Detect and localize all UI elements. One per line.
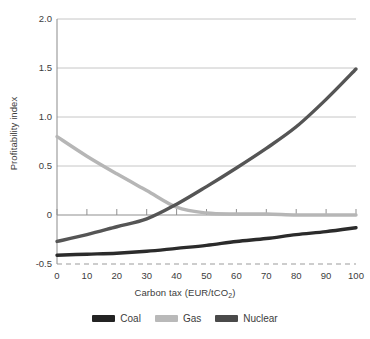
x-axis-title-main: Carbon tax (EUR/tCO — [134, 287, 228, 298]
legend-item-coal[interactable]: Coal — [92, 313, 141, 324]
x-axis-title: Carbon tax (EUR/tCO2) — [0, 287, 370, 299]
x-tick-label-20: 20 — [100, 270, 134, 281]
y-tick-label--0.5: -0.5 — [18, 258, 52, 269]
chart-legend: CoalGasNuclear — [0, 313, 370, 324]
legend-swatch-coal — [92, 315, 115, 322]
y-tick-label-1: 1.0 — [18, 111, 52, 122]
legend-swatch-gas — [155, 315, 178, 322]
x-tick-label-90: 90 — [309, 270, 343, 281]
y-tick-label-0.5: 0.5 — [18, 160, 52, 171]
x-axis-title-close: ) — [232, 287, 235, 298]
x-tick-label-60: 60 — [219, 270, 253, 281]
y-tick-label-0: 0 — [18, 209, 52, 220]
legend-label-gas: Gas — [183, 313, 201, 324]
gridlines-group — [57, 19, 356, 264]
x-tick-label-50: 50 — [190, 270, 224, 281]
x-tick-label-80: 80 — [279, 270, 313, 281]
legend-label-nuclear: Nuclear — [243, 313, 277, 324]
x-tick-label-40: 40 — [160, 270, 194, 281]
y-tick-label-2: 2.0 — [18, 13, 52, 24]
legend-item-nuclear[interactable]: Nuclear — [215, 313, 277, 324]
x-tick-label-70: 70 — [249, 270, 283, 281]
legend-label-coal: Coal — [120, 313, 141, 324]
chart-figure: 2.01.51.00.50-0.5 0102030405060708090100… — [0, 0, 370, 339]
series-line-gas — [57, 137, 356, 215]
x-tick-label-0: 0 — [40, 270, 74, 281]
x-tick-label-100: 100 — [339, 270, 370, 281]
legend-item-gas[interactable]: Gas — [155, 313, 201, 324]
legend-swatch-nuclear — [215, 315, 238, 322]
y-tick-label-1.5: 1.5 — [18, 62, 52, 73]
x-tick-label-10: 10 — [70, 270, 104, 281]
y-axis-title: Profitability index — [8, 74, 19, 194]
x-tick-label-30: 30 — [130, 270, 164, 281]
data-series-group — [57, 69, 356, 255]
